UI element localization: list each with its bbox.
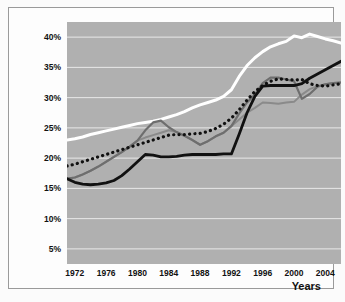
- x-axis-title: Years: [292, 280, 321, 292]
- y-tick-label-15: 15%: [23, 183, 61, 193]
- y-tick-label-30: 30%: [23, 93, 61, 103]
- y-tick-label-25: 25%: [23, 123, 61, 133]
- y-tick-label-20: 20%: [23, 153, 61, 163]
- y-tick-label-5: 5%: [23, 244, 61, 254]
- y-axis-ticks: 5%10%15%20%25%30%35%40%: [9, 8, 345, 302]
- y-tick-label-35: 35%: [23, 62, 61, 72]
- y-tick-label-40: 40%: [23, 32, 61, 42]
- x-tick-label-2004: 2004: [305, 268, 345, 278]
- chart-frame: Maximum annual income swings 5%10%15%20%…: [8, 7, 334, 289]
- chart-figure: Maximum annual income swings 5%10%15%20%…: [0, 0, 345, 302]
- y-tick-label-10: 10%: [23, 214, 61, 224]
